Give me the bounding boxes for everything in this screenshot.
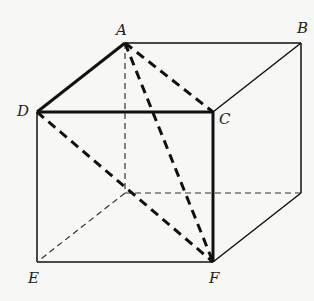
edge-B-C [213, 43, 301, 112]
diagonal-A-F [125, 43, 213, 262]
visible-edges [37, 43, 301, 262]
label-B: B [296, 19, 308, 37]
edge-A-D [37, 43, 125, 112]
hidden-edges [37, 43, 301, 262]
label-D: D [16, 102, 29, 120]
label-C: C [219, 110, 231, 128]
label-A: A [114, 21, 127, 39]
edge-back-bottom-F [213, 193, 301, 262]
cube-diagram: A B C D E F [0, 0, 314, 301]
label-F: F [208, 269, 220, 287]
label-E: E [27, 269, 39, 287]
edge-hidden-E [37, 193, 125, 262]
